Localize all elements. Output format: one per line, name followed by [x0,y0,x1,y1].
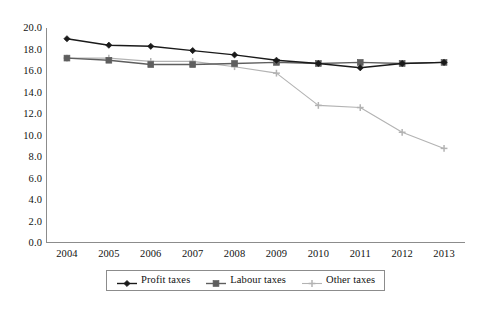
data-point-diamond [124,280,130,286]
data-point-diamond [64,36,70,42]
data-point-cross [399,129,406,136]
y-axis-tick-label: 2.0 [0,217,42,227]
data-point-square [213,280,219,286]
x-axis-tick-label: 2011 [338,247,382,260]
legend-item-label: Other taxes [326,274,375,286]
legend-cross-icon [301,275,323,286]
legend-diamond-icon [116,275,138,286]
x-axis-tick-label: 2012 [380,247,424,260]
data-point-square [190,62,196,68]
x-axis-tick-label: 2004 [45,247,89,260]
data-point-diamond [231,52,237,58]
legend-item[interactable]: Labour taxes [205,274,286,286]
y-axis-tick-label: 20.0 [0,23,42,33]
chart-svg [46,28,465,243]
data-point-square [64,55,70,61]
x-axis-tick-label: 2007 [171,247,215,260]
series-other-taxes [64,55,448,152]
y-axis-tick-label: 4.0 [0,195,42,205]
y-axis-tick-label: 10.0 [0,131,42,141]
data-point-square [232,61,238,67]
x-axis-tick-label: 2006 [129,247,173,260]
line-chart: 0.02.04.06.08.010.012.014.016.018.020.0 … [0,0,484,311]
legend-square-icon [205,275,227,286]
y-axis-tick-label: 8.0 [0,152,42,162]
x-axis-tick-label: 2009 [254,247,298,260]
legend-item[interactable]: Other taxes [301,274,375,286]
x-axis-tick-label: 2008 [213,247,257,260]
y-axis-tick-label: 14.0 [0,88,42,98]
data-point-square [106,57,112,63]
data-point-diamond [190,47,196,53]
series-profit-taxes [64,36,447,71]
y-axis-tick-label: 6.0 [0,174,42,184]
x-axis-tick-label: 2005 [87,247,131,260]
legend-item-label: Labour taxes [230,274,286,286]
data-point-cross [441,145,448,152]
y-axis-tick-label: 16.0 [0,66,42,76]
legend-item-label: Profit taxes [141,274,190,286]
x-axis-tick-labels: 2004200520062007200820092010201120122013 [46,247,465,263]
data-point-cross [309,280,316,287]
x-axis-tick-label: 2010 [296,247,340,260]
y-axis-tick-label: 0.0 [0,238,42,248]
y-axis-tick-label: 12.0 [0,109,42,119]
data-point-diamond [148,43,154,49]
data-point-diamond [106,42,112,48]
plot-area [46,28,465,243]
y-axis-tick-labels: 0.02.04.06.08.010.012.014.016.018.020.0 [0,28,42,243]
data-point-square [148,62,154,68]
series-line [67,58,444,148]
x-axis-tick-label: 2013 [422,247,466,260]
legend-item[interactable]: Profit taxes [116,274,190,286]
data-point-cross [357,104,364,111]
y-axis-tick-label: 18.0 [0,45,42,55]
chart-legend: Profit taxesLabour taxesOther taxes [106,270,385,291]
